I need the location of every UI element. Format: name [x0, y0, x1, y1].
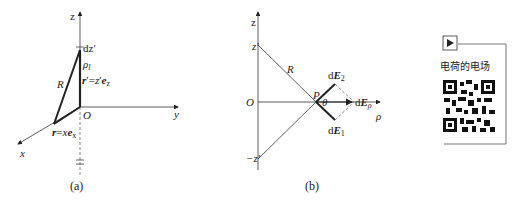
svg-text:ρ: ρ [375, 110, 381, 122]
svg-text:dE2: dE2 [328, 69, 345, 83]
qr-title: 电荷的电场 [440, 58, 490, 73]
svg-text:O: O [246, 96, 254, 108]
svg-text:(a): (a) [70, 179, 83, 193]
svg-text:P: P [312, 89, 320, 101]
svg-text:x: x [19, 147, 25, 159]
qr-code[interactable] [443, 80, 495, 132]
svg-text:y: y [173, 108, 179, 120]
svg-text:z′: z′ [251, 40, 259, 52]
svg-text:ρl: ρl [82, 58, 91, 72]
qr-card[interactable] [443, 36, 506, 144]
svg-text:r′=z′ez: r′=z′ez [82, 74, 110, 88]
svg-text:O: O [83, 109, 91, 121]
figure-a: z y x O dz′ ρl r′=z′ez R r=xex (a) [18, 10, 179, 193]
svg-text:z: z [251, 16, 256, 28]
svg-text:dEρ: dEρ [355, 96, 372, 110]
svg-text:θ: θ [322, 96, 328, 108]
svg-text:dz′: dz′ [83, 42, 96, 54]
svg-text:dE1: dE1 [328, 124, 345, 138]
svg-text:r=xex: r=xex [52, 126, 76, 140]
svg-text:R: R [56, 78, 64, 90]
svg-text:z: z [70, 10, 75, 22]
svg-text:R: R [286, 63, 294, 75]
svg-text:−z′: −z′ [246, 152, 261, 164]
svg-text:(b): (b) [305, 179, 319, 193]
figure-canvas: z y x O dz′ ρl r′=z′ez R r=xex (a) z z′ … [0, 0, 518, 204]
figure-b: z z′ −z′ O R P θ dE2 dE1 dEρ ρ (b) [246, 12, 381, 193]
